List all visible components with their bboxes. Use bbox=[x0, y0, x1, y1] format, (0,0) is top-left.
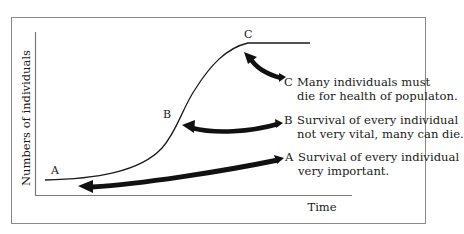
curve-label-c: C bbox=[244, 29, 252, 40]
note-a-line1: Survival of every individual bbox=[298, 150, 459, 164]
x-axis-label: Time bbox=[307, 200, 336, 214]
curve-label-a: A bbox=[51, 165, 59, 176]
note-c-line1: Many individuals must bbox=[297, 75, 430, 89]
arrow-b-icon bbox=[182, 119, 283, 133]
arrow-c-icon bbox=[244, 52, 286, 82]
note-b-line1: Survival of every individual bbox=[297, 113, 458, 127]
note-c-line2: die for health of populaton. bbox=[284, 89, 458, 103]
note-c: CMany individuals must die for health of… bbox=[284, 75, 458, 103]
note-a-line2: very important. bbox=[285, 164, 459, 178]
note-c-letter: C bbox=[284, 75, 297, 89]
y-axis-label: Numbers of individuals bbox=[19, 50, 33, 186]
note-a-letter: A bbox=[285, 150, 298, 164]
curve-label-b: B bbox=[163, 109, 171, 120]
note-a: ASurvival of every individual very impor… bbox=[285, 150, 459, 178]
note-b-letter: B bbox=[284, 113, 297, 127]
note-b-line2: not very vital, many can die. bbox=[284, 127, 464, 141]
note-b: BSurvival of every individual not very v… bbox=[284, 113, 464, 141]
